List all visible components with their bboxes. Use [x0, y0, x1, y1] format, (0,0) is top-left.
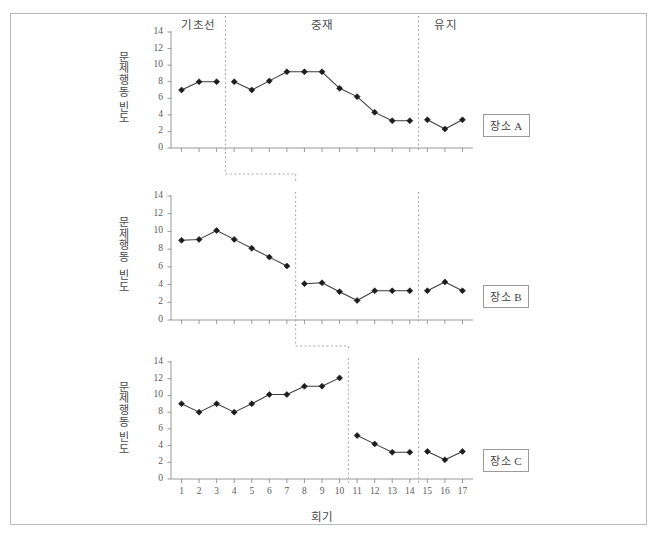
data-point-panel-2-session-8 — [301, 281, 307, 287]
panel-label-box-2: 장소 B — [483, 285, 529, 308]
phase-label-intervention: 중재 — [311, 16, 334, 32]
y-tick-label-panel-2-6: 6 — [143, 261, 163, 271]
data-point-panel-1-session-4 — [231, 79, 237, 85]
data-point-panel-3-session-17 — [459, 448, 465, 454]
data-point-panel-1-session-16 — [442, 126, 448, 132]
y-tick-label-panel-3-6: 6 — [143, 423, 163, 433]
y-axis-title-upper-panel-3: 문제 행동 — [118, 382, 130, 428]
data-point-panel-1-session-1 — [179, 87, 185, 93]
x-tick-label-15: 15 — [420, 486, 434, 496]
data-point-panel-3-session-16 — [442, 457, 448, 463]
y-tick-label-panel-2-2: 2 — [143, 296, 163, 306]
data-point-panel-1-session-7 — [284, 69, 290, 75]
data-point-panel-3-session-3 — [214, 401, 220, 407]
x-tick-label-1: 1 — [175, 486, 189, 496]
data-point-panel-2-session-11 — [354, 298, 360, 304]
data-point-panel-2-session-4 — [231, 236, 237, 242]
panel-label-box-1: 장소 A — [483, 114, 530, 137]
data-point-panel-1-session-17 — [459, 117, 465, 123]
y-tick-label-panel-2-10: 10 — [143, 225, 163, 235]
phase-step-connector-2 — [296, 324, 349, 348]
x-tick-label-17: 17 — [455, 486, 469, 496]
data-point-panel-2-session-2 — [196, 236, 202, 242]
x-tick-label-13: 13 — [385, 486, 399, 496]
y-tick-label-panel-3-2: 2 — [143, 456, 163, 466]
y-tick-label-panel-3-12: 12 — [143, 373, 163, 383]
data-line-panel-3-기초선 — [182, 378, 340, 412]
data-point-panel-1-session-15 — [424, 117, 430, 123]
y-tick-label-panel-1-0: 0 — [143, 142, 163, 152]
data-line-panel-2-기초선 — [182, 231, 287, 266]
data-point-panel-2-session-12 — [372, 288, 378, 294]
data-point-panel-3-session-9 — [319, 383, 325, 389]
data-point-panel-3-session-7 — [284, 392, 290, 398]
x-tick-label-12: 12 — [368, 486, 382, 496]
x-tick-label-16: 16 — [438, 486, 452, 496]
y-tick-label-panel-1-2: 2 — [143, 125, 163, 135]
data-point-panel-1-session-13 — [389, 118, 395, 124]
data-point-panel-3-session-10 — [337, 375, 343, 381]
y-axis-title-lower-panel-2: 빈 도 — [118, 270, 130, 293]
panel-label-box-3: 장소 C — [483, 449, 529, 472]
y-tick-label-panel-1-12: 12 — [143, 43, 163, 53]
chart-svg-wrapper — [0, 0, 659, 539]
data-point-panel-3-session-6 — [266, 392, 272, 398]
data-point-panel-2-session-15 — [424, 288, 430, 294]
y-tick-label-panel-3-4: 4 — [143, 440, 163, 450]
data-point-panel-3-session-14 — [407, 449, 413, 455]
y-tick-label-panel-1-10: 10 — [143, 59, 163, 69]
data-point-panel-1-session-14 — [407, 118, 413, 124]
y-tick-label-panel-1-4: 4 — [143, 109, 163, 119]
data-point-panel-1-session-3 — [214, 79, 220, 85]
figure-canvas: 024681012140246810121402468101214기초선중재유지… — [0, 0, 659, 539]
phase-step-connector-1 — [225, 152, 295, 182]
x-tick-label-14: 14 — [403, 486, 417, 496]
data-point-panel-3-session-8 — [301, 383, 307, 389]
data-point-panel-2-session-3 — [214, 228, 220, 234]
data-point-panel-2-session-10 — [337, 289, 343, 295]
data-point-panel-1-session-6 — [266, 78, 272, 84]
y-tick-label-panel-1-6: 6 — [143, 92, 163, 102]
y-tick-label-panel-3-8: 8 — [143, 406, 163, 416]
data-point-panel-3-session-15 — [424, 448, 430, 454]
x-tick-label-10: 10 — [333, 486, 347, 496]
data-point-panel-3-session-1 — [179, 401, 185, 407]
data-line-panel-1-중재 — [234, 72, 410, 121]
y-tick-label-panel-2-0: 0 — [143, 314, 163, 324]
data-point-panel-3-session-5 — [249, 401, 255, 407]
y-tick-label-panel-3-14: 14 — [143, 356, 163, 366]
y-axis-title-upper-panel-2: 문제 행동 — [118, 217, 130, 263]
y-axis-title-upper-panel-1: 문제 행동 — [118, 52, 130, 98]
data-point-panel-1-session-2 — [196, 79, 202, 85]
data-point-panel-3-session-13 — [389, 449, 395, 455]
data-point-panel-2-session-1 — [179, 237, 185, 243]
multiple-baseline-chart — [0, 0, 659, 539]
x-tick-label-8: 8 — [297, 486, 311, 496]
y-tick-label-panel-2-12: 12 — [143, 208, 163, 218]
y-tick-label-panel-2-4: 4 — [143, 279, 163, 289]
x-tick-label-5: 5 — [245, 486, 259, 496]
data-point-panel-3-session-12 — [372, 441, 378, 447]
data-point-panel-2-session-6 — [266, 254, 272, 260]
x-tick-label-2: 2 — [192, 486, 206, 496]
phase-label-maintenance: 유지 — [434, 16, 457, 32]
data-point-panel-1-session-8 — [301, 69, 307, 75]
x-tick-label-6: 6 — [262, 486, 276, 496]
x-tick-label-7: 7 — [280, 486, 294, 496]
x-axis-title: 회기 — [311, 508, 333, 524]
y-axis-title-lower-panel-1: 빈 도 — [118, 102, 130, 125]
y-tick-label-panel-1-8: 8 — [143, 76, 163, 86]
data-point-panel-2-session-13 — [389, 288, 395, 294]
phase-label-baseline: 기초선 — [181, 16, 215, 32]
data-point-panel-2-session-9 — [319, 280, 325, 286]
x-tick-label-4: 4 — [227, 486, 241, 496]
data-point-panel-1-session-5 — [249, 87, 255, 93]
y-tick-label-panel-3-10: 10 — [143, 389, 163, 399]
y-axis-title-lower-panel-3: 빈 도 — [118, 432, 130, 455]
data-point-panel-2-session-16 — [442, 279, 448, 285]
data-line-panel-3-중재 — [357, 436, 410, 453]
data-point-panel-2-session-5 — [249, 245, 255, 251]
data-point-panel-2-session-17 — [459, 288, 465, 294]
y-tick-label-panel-3-0: 0 — [143, 473, 163, 483]
data-point-panel-2-session-7 — [284, 263, 290, 269]
